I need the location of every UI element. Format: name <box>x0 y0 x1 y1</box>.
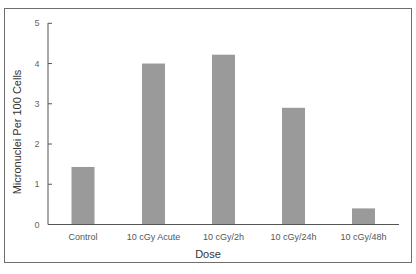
bar-2 <box>212 55 235 225</box>
bar-1 <box>142 64 165 225</box>
x-tick-label: 10 cGy/48h <box>340 232 386 242</box>
y-ticks-group: 012345 <box>34 18 52 229</box>
bar-4 <box>352 208 375 224</box>
y-axis-title: Micronuclei Per 100 Cells <box>11 69 23 194</box>
bars-group <box>72 55 376 225</box>
y-tick-label: 0 <box>34 220 39 230</box>
x-tick-label: Control <box>68 232 97 242</box>
bar-chart: 012345 Control10 cGy Acute10 cGy/2h10 cG… <box>0 0 416 274</box>
y-tick-label: 1 <box>34 179 39 189</box>
bar-0 <box>72 167 95 225</box>
x-axis-title: Dose <box>195 248 221 260</box>
y-tick-label: 3 <box>34 99 39 109</box>
y-tick-label: 5 <box>34 18 39 28</box>
x-tick-label: 10 cGy Acute <box>127 232 181 242</box>
y-tick-label: 2 <box>34 139 39 149</box>
x-tick-label: 10 cGy/24h <box>270 232 316 242</box>
y-tick-label: 4 <box>34 59 39 69</box>
bar-3 <box>282 108 305 225</box>
x-tick-label: 10 cGy/2h <box>203 232 244 242</box>
x-tick-labels-group: Control10 cGy Acute10 cGy/2h10 cGy/24h10… <box>68 232 386 242</box>
